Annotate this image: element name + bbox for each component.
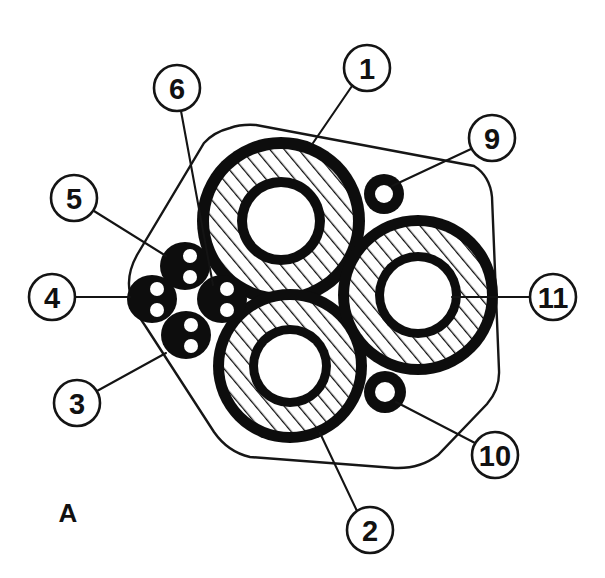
ring-2-lumen: [258, 334, 322, 398]
blob-4-dot-2: [150, 303, 164, 317]
figure-panel-a: 12345691011 A: [0, 0, 605, 578]
blob-3-dot-2: [184, 339, 198, 353]
small-ring-10-lumen: [375, 382, 395, 402]
callout-4[interactable]: 4: [29, 274, 75, 320]
blob-6-dot-1: [220, 282, 234, 296]
callout-10[interactable]: 10: [472, 432, 518, 478]
callout-9[interactable]: 9: [469, 115, 515, 161]
ring-11: [338, 215, 498, 375]
blob-4: [127, 275, 177, 323]
callout-6-number: 6: [169, 73, 185, 105]
callout-6[interactable]: 6: [154, 65, 200, 111]
small-ring-10: [364, 371, 406, 413]
cross-section-diagram: 12345691011 A: [0, 0, 605, 578]
callout-10-number: 10: [479, 440, 511, 472]
callout-4-number: 4: [44, 282, 60, 314]
ring-11-lumen: [384, 261, 452, 329]
callout-5[interactable]: 5: [51, 175, 97, 221]
blob-6-dot-2: [220, 303, 234, 317]
callout-2[interactable]: 2: [347, 507, 393, 553]
small-ring-9-lumen: [375, 185, 393, 203]
blob-3: [161, 311, 211, 359]
callout-5-number: 5: [66, 183, 82, 215]
blob-3-body: [161, 311, 211, 359]
blob-3-dot-1: [184, 318, 198, 332]
panel-label: A: [59, 498, 78, 528]
callout-11-number: 11: [538, 282, 569, 314]
blob-5-dot-1: [183, 249, 197, 263]
blob-5-dot-2: [183, 270, 197, 284]
small-ring-9: [364, 174, 404, 214]
callout-2-number: 2: [362, 515, 378, 547]
callout-3-number: 3: [69, 388, 85, 420]
blob-6: [197, 275, 247, 323]
blob-4-body: [127, 275, 177, 323]
ring-1-lumen: [247, 187, 315, 255]
callout-9-number: 9: [484, 123, 500, 155]
blob-4-dot-1: [150, 282, 164, 296]
callout-1-number: 1: [359, 53, 375, 85]
blob-6-body: [197, 275, 247, 323]
callout-1[interactable]: 1: [344, 45, 390, 91]
callout-11[interactable]: 11: [530, 274, 576, 320]
callout-3[interactable]: 3: [54, 380, 100, 426]
